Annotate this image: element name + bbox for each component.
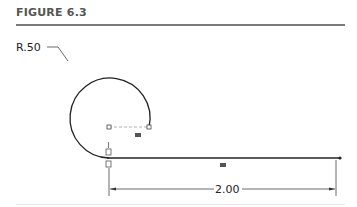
coincident-relation-icon bbox=[106, 161, 111, 167]
radius-leader bbox=[47, 47, 68, 61]
length-dimension[interactable]: 2.00 bbox=[215, 183, 240, 196]
horizontal-relation-icon bbox=[135, 133, 141, 137]
sketch-canvas: R.50 2.00 bbox=[0, 0, 357, 207]
bottom-rule bbox=[16, 204, 345, 205]
radius-dimension[interactable]: R.50 bbox=[16, 41, 41, 54]
arc-endpoint[interactable] bbox=[147, 125, 151, 129]
arrow-right bbox=[329, 188, 335, 191]
line-endpoint[interactable] bbox=[338, 156, 341, 159]
horizontal-relation-icon bbox=[220, 163, 226, 167]
center-point[interactable] bbox=[107, 125, 111, 129]
arrow-left bbox=[110, 188, 116, 191]
tangent-relation-icon bbox=[106, 149, 111, 155]
arc-entity[interactable] bbox=[70, 78, 150, 158]
